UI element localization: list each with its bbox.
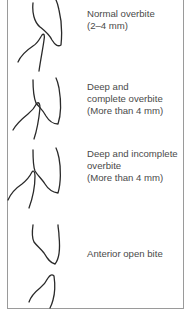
label-line: Deep and: [87, 81, 163, 93]
label-deep-complete-overbite: Deep and complete overbite (More than 4 …: [87, 81, 163, 117]
lower-incisor-icon: [18, 34, 44, 71]
label-line: Normal overbite: [87, 8, 155, 20]
label-anterior-open-bite: Anterior open bite: [87, 248, 163, 260]
upper-incisor-icon: [32, 225, 59, 264]
lower-incisor-icon: [13, 103, 40, 139]
lower-incisor-icon: [29, 275, 55, 308]
label-line: (2–4 mm): [87, 20, 155, 32]
label-line: (More than 4 mm): [87, 105, 163, 117]
label-line: Anterior open bite: [87, 248, 163, 260]
label-line: overbite: [87, 160, 178, 172]
upper-incisor-icon: [33, 0, 62, 46]
lower-incisor-icon: [8, 171, 35, 208]
label-deep-incomplete-overbite: Deep and incomplete overbite (More than …: [87, 148, 178, 184]
label-line: Deep and incomplete: [87, 148, 178, 160]
label-line: complete overbite: [87, 93, 163, 105]
label-line: (More than 4 mm): [87, 172, 178, 184]
panel-deep-complete-teeth: [13, 78, 60, 139]
panel-normal-teeth: [18, 0, 62, 71]
panel-open-bite-teeth: [29, 225, 60, 308]
upper-incisor-icon: [33, 78, 60, 124]
upper-incisor-icon: [33, 148, 60, 193]
label-normal-overbite: Normal overbite (2–4 mm): [87, 8, 155, 32]
panel-deep-incomplete-teeth: [8, 148, 60, 208]
